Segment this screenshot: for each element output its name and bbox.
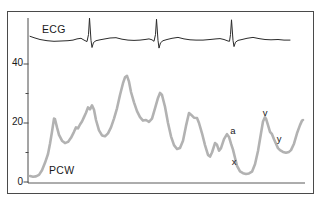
ecg-trace — [30, 18, 290, 48]
wave-annotation-v: v — [263, 107, 268, 118]
y-tick-label-0: 0 — [6, 176, 23, 187]
pcw-trace-label: PCW — [49, 164, 74, 176]
pcw-trace — [30, 76, 303, 177]
y-tick-label-40: 40 — [6, 57, 23, 68]
y-tick-label-20: 20 — [6, 116, 23, 127]
wave-annotation-y: y — [277, 133, 282, 144]
wave-annotation-x: x — [232, 156, 237, 167]
wave-annotation-a: a — [230, 125, 236, 136]
hemodynamic-tracing-figure: axvy ECG PCW 40 20 0 — [0, 0, 323, 205]
ecg-trace-label: ECG — [42, 23, 66, 35]
